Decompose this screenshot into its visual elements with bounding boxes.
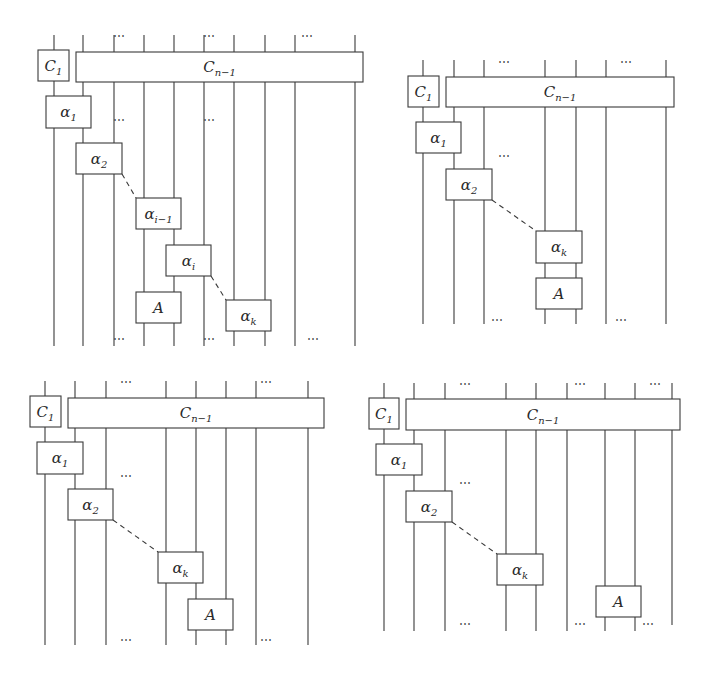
dashed-connector	[452, 522, 497, 554]
box-label: A	[151, 299, 164, 317]
string-diagram-figure: C1Cn−1α1α2αi−1αiAαk⋯⋯⋯⋯⋯⋯⋯⋯C1Cn−1α1α2αkA…	[0, 0, 716, 674]
alpha-i-1-box: αi−1	[136, 198, 181, 229]
ellipsis: ⋯	[301, 29, 314, 43]
alpha-k-box: αk	[536, 231, 582, 263]
cn-1-box: Cn−1	[68, 398, 324, 428]
ellipsis: ⋯	[120, 375, 133, 389]
c1-box: C1	[408, 76, 439, 107]
alpha-k-box: αk	[158, 552, 203, 583]
a-box: A	[188, 599, 233, 630]
alpha-1-box: α1	[416, 122, 461, 153]
ellipsis: ⋯	[649, 377, 662, 391]
a-box: A	[136, 292, 181, 323]
alpha-1-box: α1	[376, 444, 422, 475]
dashed-connector	[122, 174, 136, 198]
ellipsis: ⋯	[459, 617, 472, 631]
ellipsis: ⋯	[642, 617, 655, 631]
ellipsis: ⋯	[491, 313, 504, 327]
alpha-i-box: αi	[166, 245, 211, 276]
alpha-k-box: αk	[226, 300, 271, 331]
alpha-k-box: αk	[497, 554, 543, 585]
c1-box: C1	[369, 398, 399, 429]
ellipsis: ⋯	[113, 113, 126, 127]
alpha-2-box: α2	[406, 491, 452, 522]
ellipsis: ⋯	[620, 55, 633, 69]
panel-top-left: C1Cn−1α1α2αi−1αiAαk⋯⋯⋯⋯⋯⋯⋯⋯	[38, 29, 363, 346]
ellipsis: ⋯	[498, 149, 511, 163]
ellipsis: ⋯	[120, 633, 133, 647]
ellipsis: ⋯	[203, 29, 216, 43]
cn-1-box: Cn−1	[76, 52, 363, 82]
ellipsis: ⋯	[120, 469, 133, 483]
ellipsis: ⋯	[260, 633, 273, 647]
dashed-connector	[211, 276, 226, 300]
ellipsis: ⋯	[574, 377, 587, 391]
ellipsis: ⋯	[203, 113, 216, 127]
box-label: A	[203, 606, 216, 624]
ellipsis: ⋯	[203, 332, 216, 346]
c1-box: C1	[30, 396, 61, 427]
alpha-2-box: α2	[446, 169, 492, 200]
ellipsis: ⋯	[113, 29, 126, 43]
ellipsis: ⋯	[307, 332, 320, 346]
ellipsis: ⋯	[113, 332, 126, 346]
ellipsis: ⋯	[459, 377, 472, 391]
cn-1-box: Cn−1	[446, 77, 674, 107]
alpha-2-box: α2	[76, 143, 122, 174]
ellipsis: ⋯	[574, 617, 587, 631]
ellipsis: ⋯	[615, 313, 628, 327]
alpha-1-box: α1	[46, 96, 91, 128]
dashed-connector	[113, 520, 158, 552]
a-box: A	[596, 586, 641, 617]
dashed-connector	[492, 200, 536, 231]
box-label: A	[611, 593, 624, 611]
alpha-2-box: α2	[68, 489, 113, 520]
panel-bottom-right: C1Cn−1α1α2αkA⋯⋯⋯⋯⋯⋯⋯	[369, 377, 680, 631]
alpha-1-box: α1	[37, 442, 83, 474]
box-label: A	[552, 285, 565, 303]
ellipsis: ⋯	[498, 55, 511, 69]
cn-1-box: Cn−1	[406, 399, 680, 430]
a-box: A	[536, 278, 582, 309]
panel-bottom-left: C1Cn−1α1α2αkA⋯⋯⋯⋯⋯	[30, 375, 324, 647]
c1-box: C1	[38, 50, 69, 81]
ellipsis: ⋯	[459, 476, 472, 490]
ellipsis: ⋯	[260, 375, 273, 389]
panel-top-right: C1Cn−1α1α2αkA⋯⋯⋯⋯⋯	[408, 55, 674, 327]
